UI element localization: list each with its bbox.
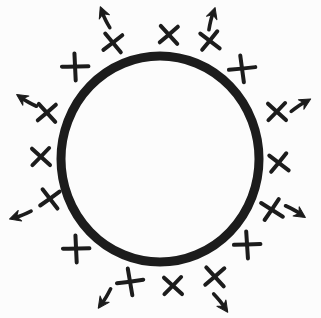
- outward-arrow: [203, 6, 221, 31]
- x-mark: [37, 103, 56, 122]
- arrow-shaft: [291, 102, 305, 111]
- outward-arrow: [283, 200, 308, 222]
- outward-arrow: [210, 290, 232, 315]
- diagram-stage: [0, 0, 321, 318]
- x-mark: [164, 277, 182, 294]
- circle-outline: [61, 56, 259, 262]
- outward-arrow: [288, 94, 313, 115]
- x-mark: [103, 33, 123, 52]
- x-mark: [63, 235, 91, 263]
- outward-arrow: [94, 286, 116, 311]
- x-mark: [159, 25, 178, 44]
- x-mark: [268, 103, 286, 120]
- outward-arrow: [14, 90, 39, 112]
- arrow-head: [298, 94, 313, 109]
- x-mark: [40, 189, 61, 209]
- outward-arrow: [95, 5, 114, 30]
- outward-arrow: [8, 207, 33, 225]
- x-mark: [200, 31, 219, 50]
- x-mark: [234, 231, 262, 259]
- x-mark: [117, 268, 144, 295]
- arrow-shaft: [208, 14, 214, 30]
- arrow-shaft: [22, 98, 36, 108]
- field-diagram: [0, 0, 321, 318]
- arrow-shaft: [101, 289, 111, 303]
- x-mark-stroke: [261, 199, 281, 220]
- x-mark: [62, 53, 90, 81]
- x-mark: [261, 199, 283, 220]
- arrow-shaft: [214, 293, 224, 307]
- arrow-shaft: [286, 205, 300, 215]
- x-mark: [229, 55, 257, 82]
- x-mark: [269, 153, 288, 172]
- x-mark: [205, 267, 226, 287]
- x-mark: [32, 148, 50, 165]
